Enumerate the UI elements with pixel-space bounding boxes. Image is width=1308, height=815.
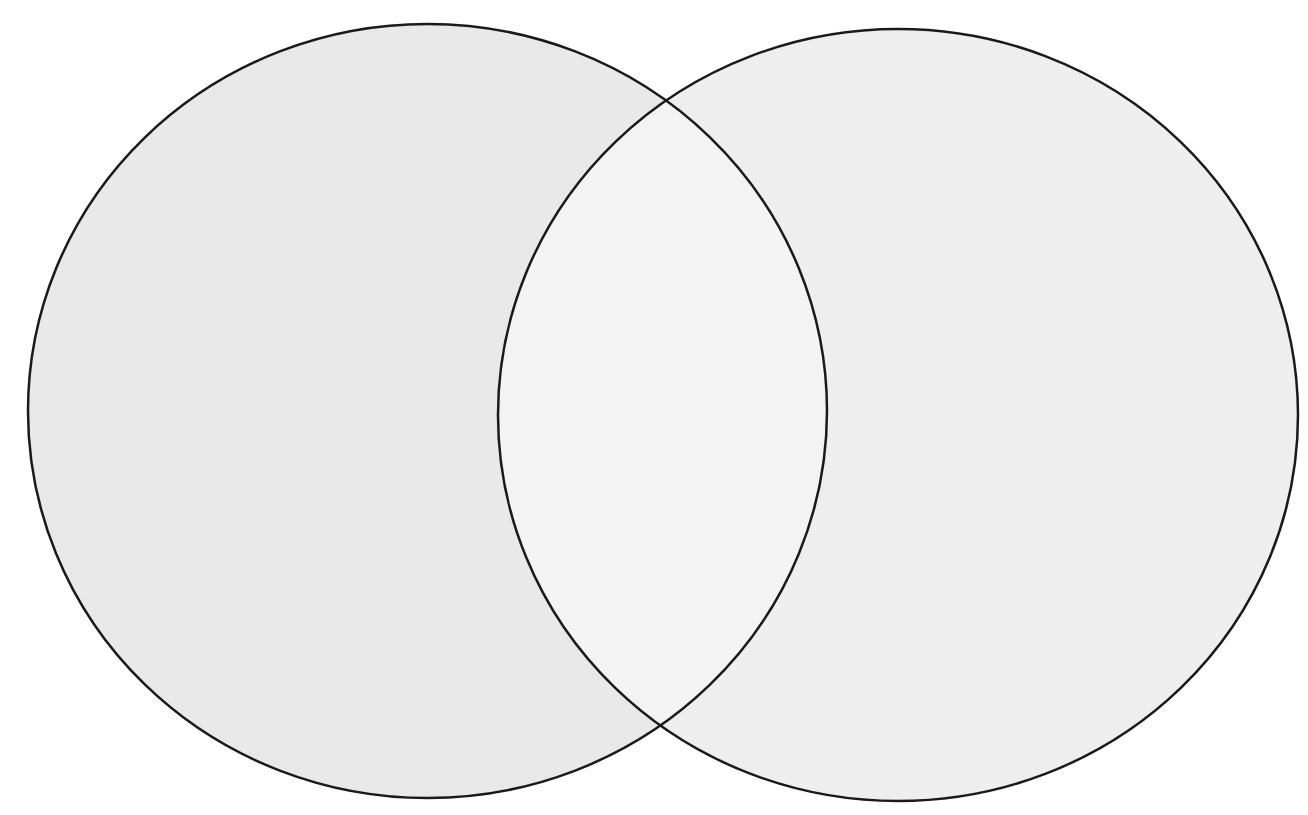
venn-diagram-svg	[0, 0, 1308, 815]
venn-diagram	[0, 0, 1308, 815]
